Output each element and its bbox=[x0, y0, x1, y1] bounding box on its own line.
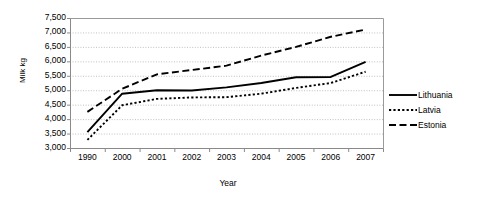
legend-item-latvia[interactable]: Latvia bbox=[389, 102, 477, 117]
legend-label: Estonia bbox=[417, 120, 446, 130]
line-chart-figure: Milk kg 3,0003,5004,0004,5005,0005,5006,… bbox=[0, 0, 478, 202]
legend-label: Latvia bbox=[417, 105, 441, 115]
legend-swatch-solid-icon bbox=[389, 90, 417, 100]
legend-item-estonia[interactable]: Estonia bbox=[389, 117, 477, 132]
legend-item-lithuania[interactable]: Lithuania bbox=[389, 87, 477, 102]
chart-legend: LithuaniaLatviaEstonia bbox=[389, 87, 477, 132]
x-axis-title: Year bbox=[206, 178, 250, 188]
x-tick-label: 2007 bbox=[346, 153, 386, 162]
legend-label: Lithuania bbox=[417, 90, 453, 100]
legend-swatch-dotted-icon bbox=[389, 105, 417, 115]
legend-swatch-dashed-icon bbox=[389, 120, 417, 130]
